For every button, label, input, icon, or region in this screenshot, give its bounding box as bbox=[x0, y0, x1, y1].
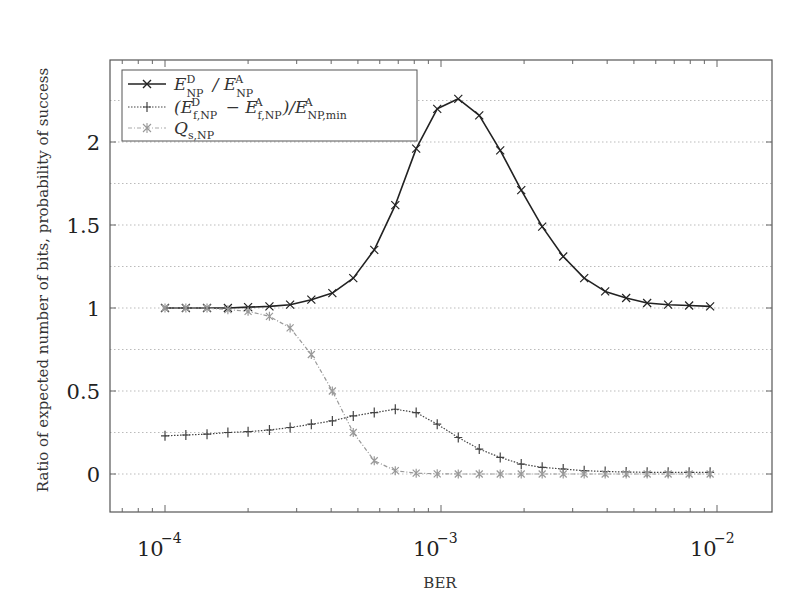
data-point-marker bbox=[475, 444, 483, 454]
y-tick-label: 0 bbox=[87, 463, 100, 487]
data-point-marker bbox=[454, 432, 462, 442]
y-tick-labels: 0 0.5 1 1.5 2 bbox=[67, 131, 100, 487]
data-point-marker bbox=[224, 428, 232, 438]
data-point-marker bbox=[391, 404, 399, 414]
data-point-marker bbox=[496, 452, 504, 462]
data-point-marker bbox=[286, 423, 294, 433]
data-point-marker bbox=[433, 419, 441, 429]
data-point-marker bbox=[371, 456, 378, 465]
series-line bbox=[165, 409, 710, 472]
data-point-marker bbox=[370, 246, 378, 254]
data-point-marker bbox=[287, 323, 294, 332]
y-tick-label: 1.5 bbox=[67, 214, 100, 238]
x-tick-label: 10 −2 bbox=[690, 530, 735, 561]
data-point-marker bbox=[349, 411, 357, 421]
data-point-marker bbox=[182, 430, 190, 440]
svg-text:−4: −4 bbox=[161, 530, 182, 546]
x-tick-label: 10 −3 bbox=[413, 530, 458, 561]
y-tick-label: 2 bbox=[87, 131, 100, 155]
svg-text:10: 10 bbox=[690, 537, 717, 561]
data-point-marker bbox=[412, 408, 420, 418]
data-point-marker bbox=[580, 274, 588, 282]
data-point-marker bbox=[538, 223, 546, 231]
x-tick-labels: 10 −4 10 −3 10 −2 bbox=[137, 530, 735, 561]
svg-text:−2: −2 bbox=[714, 530, 735, 546]
data-point-marker bbox=[308, 350, 315, 359]
data-point-marker bbox=[412, 145, 420, 153]
series-1 bbox=[161, 404, 714, 477]
legend: ENPD / ENPA (Ef,NPD − Ef,NPA)/ENP,minA Q… bbox=[122, 70, 417, 142]
y-tick-label: 0.5 bbox=[67, 380, 100, 404]
data-point-marker bbox=[496, 146, 504, 154]
data-point-marker bbox=[307, 419, 315, 429]
line-chart: 0 0.5 1 1.5 2 10 −4 10 −3 10 −2 BER Rati… bbox=[0, 0, 797, 606]
data-point-marker bbox=[517, 459, 525, 469]
data-point-marker bbox=[265, 425, 273, 435]
data-point-marker bbox=[601, 287, 609, 295]
data-point-marker bbox=[203, 429, 211, 439]
data-point-marker bbox=[328, 289, 336, 297]
data-point-marker bbox=[370, 408, 378, 418]
data-point-marker bbox=[559, 253, 567, 261]
data-point-marker bbox=[454, 95, 462, 103]
data-series bbox=[161, 95, 714, 479]
svg-text:10: 10 bbox=[413, 537, 440, 561]
grid-lines bbox=[110, 101, 772, 475]
y-tick-label: 1 bbox=[87, 297, 100, 321]
data-point-marker bbox=[433, 105, 441, 113]
svg-text:−3: −3 bbox=[437, 530, 458, 546]
data-point-marker bbox=[475, 111, 483, 119]
x-tick-label: 10 −4 bbox=[137, 530, 182, 561]
legend-box bbox=[122, 70, 417, 141]
x-axis-title: BER bbox=[423, 574, 457, 592]
data-point-marker bbox=[245, 307, 252, 316]
svg-text:10: 10 bbox=[137, 537, 164, 561]
data-point-marker bbox=[328, 416, 336, 426]
y-axis-title: Ratio of expected number of bits, probab… bbox=[34, 68, 52, 492]
data-point-marker bbox=[517, 186, 525, 194]
data-point-marker bbox=[244, 427, 252, 437]
data-point-marker bbox=[391, 201, 399, 209]
data-point-marker bbox=[349, 274, 357, 282]
